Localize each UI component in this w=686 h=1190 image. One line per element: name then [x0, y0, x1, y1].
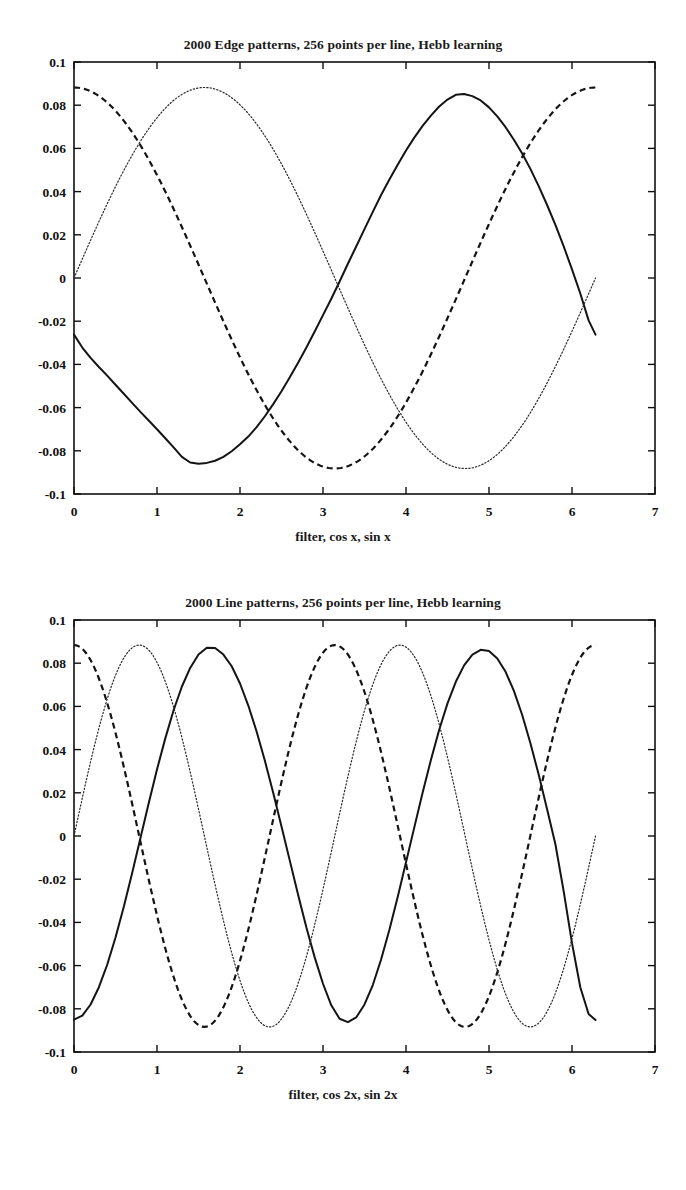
y-tick-label: -0.1 — [45, 1045, 67, 1060]
y-tick-label: 0 — [59, 829, 66, 844]
y-tick-label: -0.08 — [38, 444, 66, 459]
y-tick-label: -0.08 — [38, 1002, 66, 1017]
x-tick-label: 6 — [569, 504, 576, 519]
y-tick-label: -0.04 — [38, 915, 66, 930]
y-tick-label: 0.06 — [42, 141, 66, 156]
y-tick-label: 0.1 — [49, 56, 66, 70]
y-tick-label: -0.02 — [38, 314, 66, 329]
plot-svg-line: 01234567-0.1-0.08-0.06-0.04-0.0200.020.0… — [0, 614, 686, 1084]
y-tick-label: 0.1 — [49, 614, 66, 628]
panel-title-edge: 2000 Edge patterns, 256 points per line,… — [0, 34, 686, 56]
x-tick-label: 1 — [154, 1062, 161, 1077]
x-tick-label: 7 — [652, 1062, 659, 1077]
x-tick-label: 2 — [237, 1062, 244, 1077]
x-tick-label: 2 — [237, 504, 244, 519]
axis-frame — [74, 62, 655, 494]
x-tick-label: 4 — [403, 504, 410, 519]
axis-frame — [74, 620, 655, 1052]
y-tick-label: 0.08 — [42, 98, 66, 113]
chart-panel-edge: 2000 Edge patterns, 256 points per line,… — [0, 34, 686, 594]
x-tick-label: 0 — [71, 1062, 78, 1077]
y-tick-label: 0.08 — [42, 656, 66, 671]
plot-area-line: 01234567-0.1-0.08-0.06-0.04-0.0200.020.0… — [0, 614, 686, 1084]
y-tick-label: -0.02 — [38, 872, 66, 887]
x-tick-label: 6 — [569, 1062, 576, 1077]
plot-svg-edge: 01234567-0.1-0.08-0.06-0.04-0.0200.020.0… — [0, 56, 686, 526]
y-tick-label: 0.04 — [42, 185, 66, 200]
series-solid — [74, 94, 596, 464]
y-tick-label: -0.06 — [38, 959, 66, 974]
x-tick-label: 7 — [652, 504, 659, 519]
figure-page: 2000 Edge patterns, 256 points per line,… — [0, 0, 686, 1190]
x-tick-label: 3 — [320, 1062, 327, 1077]
x-tick-label: 5 — [486, 504, 493, 519]
y-tick-label: 0 — [59, 271, 66, 286]
panel-title-line: 2000 Line patterns, 256 points per line,… — [0, 592, 686, 614]
y-tick-label: 0.06 — [42, 699, 66, 714]
x-tick-label: 0 — [71, 504, 78, 519]
chart-panel-line: 2000 Line patterns, 256 points per line,… — [0, 592, 686, 1162]
x-tick-label: 5 — [486, 1062, 493, 1077]
x-tick-label: 1 — [154, 504, 161, 519]
y-tick-label: 0.02 — [42, 786, 66, 801]
panel-xlabel-line: filter, cos 2x, sin 2x — [0, 1084, 686, 1106]
y-tick-label: -0.04 — [38, 357, 66, 372]
y-tick-label: 0.04 — [42, 743, 66, 758]
x-tick-label: 4 — [403, 1062, 410, 1077]
y-tick-label: -0.06 — [38, 401, 66, 416]
panel-xlabel-edge: filter, cos x, sin x — [0, 526, 686, 548]
plot-area-edge: 01234567-0.1-0.08-0.06-0.04-0.0200.020.0… — [0, 56, 686, 526]
x-tick-label: 3 — [320, 504, 327, 519]
y-tick-label: 0.02 — [42, 228, 66, 243]
y-tick-label: -0.1 — [45, 487, 67, 502]
